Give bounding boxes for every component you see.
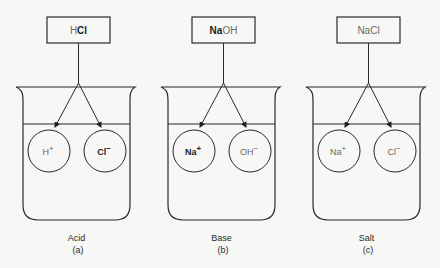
ion-charge: +	[49, 144, 54, 153]
ion-charge: −	[396, 144, 401, 153]
beaker	[161, 87, 280, 220]
panel-letter: (c)	[363, 245, 374, 255]
beaker	[16, 87, 135, 220]
ion-label: Na+	[330, 144, 347, 157]
ion-label: Na+	[185, 144, 202, 157]
panel-letter: (a)	[73, 245, 84, 255]
formula-part: OH	[222, 25, 237, 36]
ion-symbol: Na	[330, 147, 342, 157]
arrow-left	[345, 83, 369, 127]
formula-part: Cl	[77, 25, 87, 36]
ion-symbol: Cl	[387, 147, 396, 157]
ion-charge: +	[196, 144, 201, 153]
ion-charge: −	[253, 144, 258, 153]
panel-b: NaOHNa+OH−Base(b)	[161, 17, 280, 255]
arrow-right	[369, 83, 392, 127]
ion-label: Cl−	[387, 144, 401, 157]
acid-base-salt-diagram: HClH+Cl−Acid(a)NaOHNa+OH−Base(b)NaClNa+C…	[0, 0, 440, 268]
beaker	[306, 87, 425, 220]
arrow-left	[55, 83, 79, 127]
arrow-right	[79, 83, 102, 127]
formula-part: H	[70, 25, 77, 36]
panel-c: NaClNa+Cl−Salt(c)	[306, 17, 425, 255]
ion-label: OH−	[240, 144, 259, 157]
ion-symbol: OH	[240, 147, 254, 157]
compound-formula: HCl	[70, 25, 87, 36]
compound-formula: NaCl	[357, 25, 379, 36]
panel-letter: (b)	[218, 245, 229, 255]
arrow-right	[224, 83, 247, 127]
panel-caption: Acid	[68, 233, 86, 243]
panel-caption: Salt	[359, 233, 375, 243]
ion-label: Cl−	[97, 144, 111, 157]
ion-charge: −	[106, 144, 111, 153]
panel-a: HClH+Cl−Acid(a)	[16, 17, 135, 255]
ion-charge: +	[341, 144, 346, 153]
compound-formula: NaOH	[210, 25, 238, 36]
formula-part: Na	[210, 25, 223, 36]
panel-caption: Base	[211, 233, 232, 243]
arrow-left	[200, 83, 224, 127]
ion-symbol: Cl	[97, 147, 106, 157]
ion-label: H+	[42, 144, 54, 157]
formula-part: NaCl	[357, 25, 379, 36]
